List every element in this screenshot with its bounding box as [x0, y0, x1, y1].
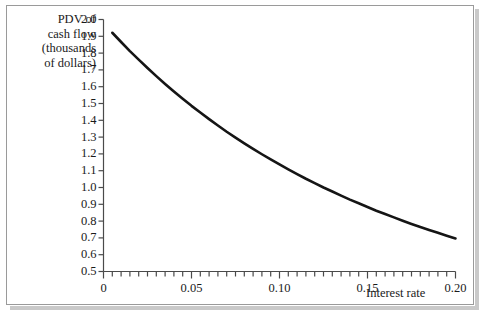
y-tick-label: 1.2 — [63, 147, 97, 159]
y-tick-label: 1.1 — [63, 164, 97, 176]
y-tick-label: 1.0 — [63, 181, 97, 193]
y-tick-label: 0.6 — [63, 248, 97, 260]
y-tick-label: 1.8 — [63, 47, 97, 59]
figure-container: PDV of cash flow (thousands of dollars) … — [0, 0, 482, 319]
y-tick-label: 0.5 — [63, 265, 97, 277]
y-tick-label: 0.8 — [63, 215, 97, 227]
y-tick-label: 1.4 — [63, 114, 97, 126]
x-tick-label: 0.05 — [167, 282, 217, 294]
y-tick-label: 1.9 — [63, 30, 97, 42]
y-tick-label: 0.9 — [63, 198, 97, 210]
x-axis-label: Interest rate — [366, 286, 425, 301]
y-tick-label: 2.0 — [63, 13, 97, 25]
x-tick-label: 0.10 — [255, 282, 305, 294]
y-tick-label: 1.5 — [63, 97, 97, 109]
y-tick-label: 1.6 — [63, 80, 97, 92]
y-tick-label: 0.7 — [63, 231, 97, 243]
x-tick-label: 0.20 — [431, 282, 481, 294]
axes — [99, 20, 456, 279]
pdv-curve — [112, 33, 455, 239]
x-tick-label: 0 — [79, 282, 129, 294]
y-tick-label: 1.3 — [63, 131, 97, 143]
y-tick-label: 1.7 — [63, 63, 97, 75]
